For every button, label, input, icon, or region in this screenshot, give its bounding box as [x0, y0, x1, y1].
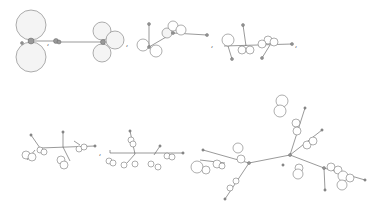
graph-stage-1: [16, 10, 60, 72]
separator-comma: ,: [47, 39, 49, 47]
graph-stage-4: [222, 24, 294, 61]
separator-comma: ,: [295, 41, 297, 49]
separator-comma: ,: [99, 149, 101, 157]
graph-stages-diagram: , , ,: [0, 0, 384, 205]
graph-stage-7: [191, 95, 366, 200]
graph-stage-2: [57, 22, 124, 62]
separator-comma: ,: [126, 40, 128, 48]
graph-stage-3: [137, 21, 209, 57]
separator-comma: ,: [211, 41, 213, 49]
graph-stage-5: [22, 131, 96, 169]
graph-stage-6: [106, 130, 184, 170]
